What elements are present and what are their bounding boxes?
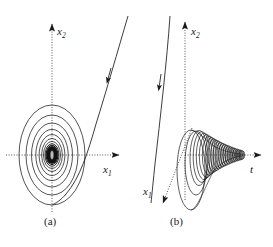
panel-b-caption: (b) — [170, 215, 183, 227]
panel-b — [151, 16, 261, 210]
phase-portrait-figure — [0, 0, 273, 247]
axis-label-a-x1: x1 — [103, 163, 112, 178]
panel-a-trajectory — [53, 16, 129, 205]
panel-a-spiral — [19, 105, 85, 205]
panel-a — [6, 16, 128, 212]
helix-mouth-inner — [185, 131, 207, 195]
axis-label-b-t: t — [250, 163, 253, 175]
axis-b-x1 — [163, 128, 192, 203]
panel-b-trajectory — [151, 16, 170, 203]
axis-label-b-x1: x1 — [143, 185, 152, 200]
panel-b-helix — [177, 130, 245, 210]
panel-b-axes — [163, 22, 261, 203]
panel-a-caption: (a) — [44, 215, 56, 227]
axis-label-a-x2: x2 — [57, 25, 66, 40]
panel-b-trajectory-arrow — [159, 74, 161, 88]
axis-label-b-x2: x2 — [191, 25, 200, 40]
